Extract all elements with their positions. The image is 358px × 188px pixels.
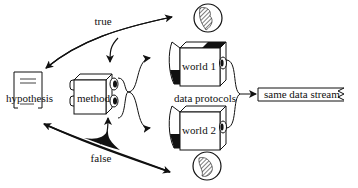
true-label: true (94, 15, 111, 27)
world-1-label: world 1 (182, 60, 216, 72)
same-data-stream-label: same data stream (264, 88, 340, 100)
method-to-worlds-connector (118, 58, 150, 128)
method-label: method (77, 92, 110, 104)
hypothesis-label: hypothesis (6, 92, 53, 104)
data-protocols-label: data protocols (174, 92, 236, 104)
world-2-box (169, 106, 226, 180)
false-label: false (91, 152, 112, 164)
world-2-label: world 2 (182, 124, 216, 136)
world-1-box (169, 4, 226, 86)
